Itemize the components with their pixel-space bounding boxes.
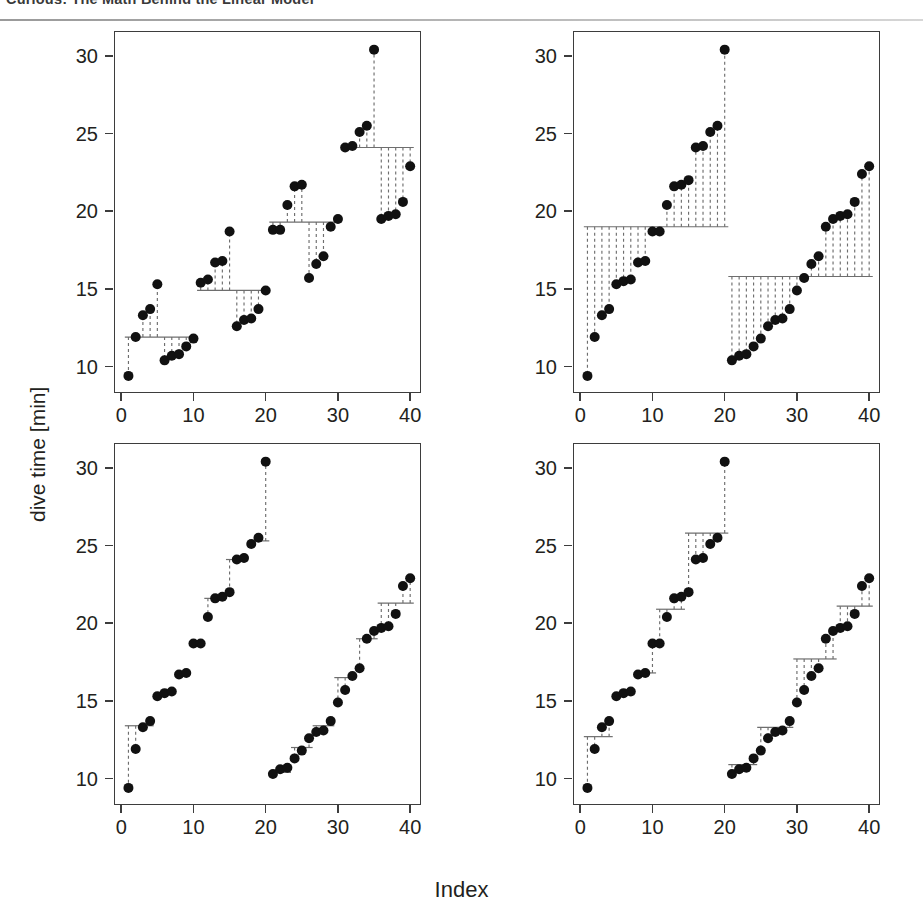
data-point	[347, 671, 357, 681]
x-tick-label: 20	[236, 405, 296, 425]
data-point	[850, 197, 860, 207]
x-tick-mark	[868, 393, 870, 401]
data-point	[333, 697, 343, 707]
data-point	[626, 275, 636, 285]
x-tick-mark	[337, 805, 339, 813]
data-point	[777, 313, 787, 323]
x-tick-label: 30	[767, 405, 827, 425]
data-point	[225, 226, 235, 236]
data-point	[741, 763, 751, 773]
x-tick-mark	[652, 393, 654, 401]
data-point	[749, 341, 759, 351]
data-point	[261, 285, 271, 295]
x-tick-label: 20	[695, 405, 755, 425]
x-tick-mark	[796, 805, 798, 813]
data-point	[398, 581, 408, 591]
data-point	[131, 332, 141, 342]
step-levels	[584, 227, 873, 277]
x-tick-label: 10	[622, 817, 682, 837]
y-tick-mark	[564, 133, 572, 135]
x-tick-label: 30	[308, 817, 368, 837]
x-tick-mark	[120, 393, 122, 401]
data-point	[246, 313, 256, 323]
x-tick-label: 40	[839, 405, 899, 425]
data-point	[712, 533, 722, 543]
step-levels	[584, 533, 873, 764]
y-tick-mark	[105, 778, 113, 780]
y-tick-mark	[564, 210, 572, 212]
y-tick-label: 15	[44, 279, 98, 299]
data-point	[792, 285, 802, 295]
data-point	[261, 457, 271, 467]
y-tick-mark	[105, 133, 113, 135]
y-tick-mark	[564, 700, 572, 702]
residual-stems	[128, 50, 410, 376]
data-point	[311, 259, 321, 269]
y-tick-mark	[564, 622, 572, 624]
data-point	[720, 45, 730, 55]
data-point	[799, 273, 809, 283]
data-point	[282, 763, 292, 773]
x-tick-mark	[579, 393, 581, 401]
x-tick-label: 0	[91, 405, 151, 425]
panel-top-right: 1015202530010203040	[573, 31, 880, 393]
y-tick-mark	[564, 55, 572, 57]
data-point	[362, 634, 372, 644]
data-point	[167, 687, 177, 697]
data-point	[383, 621, 393, 631]
data-point	[806, 259, 816, 269]
data-point	[604, 304, 614, 314]
x-tick-label: 40	[839, 817, 899, 837]
x-tick-label: 10	[622, 405, 682, 425]
y-tick-mark	[105, 366, 113, 368]
data-point	[188, 334, 198, 344]
data-point	[326, 716, 336, 726]
data-point	[253, 533, 263, 543]
data-point	[181, 668, 191, 678]
data-point	[275, 225, 285, 235]
y-tick-label: 20	[503, 613, 557, 633]
y-tick-label: 10	[503, 357, 557, 377]
data-point	[239, 553, 249, 563]
y-tick-label: 25	[503, 124, 557, 144]
data-point	[857, 169, 867, 179]
y-tick-mark	[564, 288, 572, 290]
y-tick-label: 20	[503, 201, 557, 221]
y-tick-label: 30	[503, 46, 557, 66]
data-point	[806, 671, 816, 681]
panel-bottom-left: 1015202530010203040	[114, 443, 421, 805]
data-point	[203, 275, 213, 285]
data-point	[217, 256, 227, 266]
x-tick-mark	[868, 805, 870, 813]
data-point	[684, 587, 694, 597]
data-point	[203, 612, 213, 622]
plot-canvas	[114, 31, 421, 393]
data-point	[405, 573, 415, 583]
x-tick-mark	[409, 393, 411, 401]
data-points	[123, 457, 415, 793]
data-point	[318, 725, 328, 735]
data-point	[640, 256, 650, 266]
data-point	[842, 209, 852, 219]
data-point	[821, 634, 831, 644]
data-point	[391, 209, 401, 219]
data-point	[756, 334, 766, 344]
data-point	[347, 141, 357, 151]
residual-stems	[587, 462, 869, 788]
data-point	[152, 279, 162, 289]
data-point	[590, 744, 600, 754]
y-tick-mark	[105, 210, 113, 212]
x-tick-mark	[724, 805, 726, 813]
plot-canvas	[114, 443, 421, 805]
y-tick-label: 30	[44, 458, 98, 478]
x-tick-mark	[193, 393, 195, 401]
data-point	[864, 161, 874, 171]
data-point	[297, 746, 307, 756]
x-tick-label: 0	[91, 817, 151, 837]
x-tick-mark	[409, 805, 411, 813]
data-point	[355, 663, 365, 673]
data-point	[842, 621, 852, 631]
data-point	[405, 161, 415, 171]
data-point	[326, 222, 336, 232]
y-tick-label: 30	[503, 458, 557, 478]
